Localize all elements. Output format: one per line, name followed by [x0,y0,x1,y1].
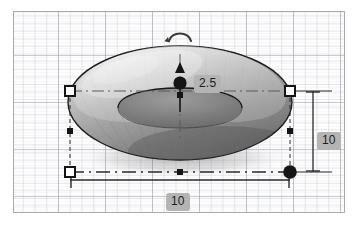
screenshot-root: 2.5 10 10 [0,0,358,226]
handle-edge-right-square-small-icon[interactable] [287,128,293,134]
center-square-small-icon[interactable] [177,92,183,98]
handle-corner-right-square-handle-icon[interactable] [285,86,295,96]
dimension-height-label[interactable]: 2.5 [194,75,221,93]
dimension-width-label[interactable]: 10 [166,193,190,211]
handle-edge-bottom-square-small-icon[interactable] [177,169,183,175]
handle-corner-bottom-left-square-handle-icon[interactable] [65,167,75,177]
rotate-arc-icon[interactable] [164,34,191,43]
modeling-viewport[interactable]: 2.5 10 10 [13,11,345,213]
handle-corner-bottom-right-circle-filled-icon[interactable] [283,165,297,179]
handle-edge-left-square-small-icon[interactable] [67,128,73,134]
scene-graphics [14,12,345,213]
center-grip-circle-filled-icon[interactable] [173,76,186,89]
dimension-depth-label[interactable]: 10 [317,132,341,150]
handle-corner-left-square-handle-icon[interactable] [65,86,75,96]
